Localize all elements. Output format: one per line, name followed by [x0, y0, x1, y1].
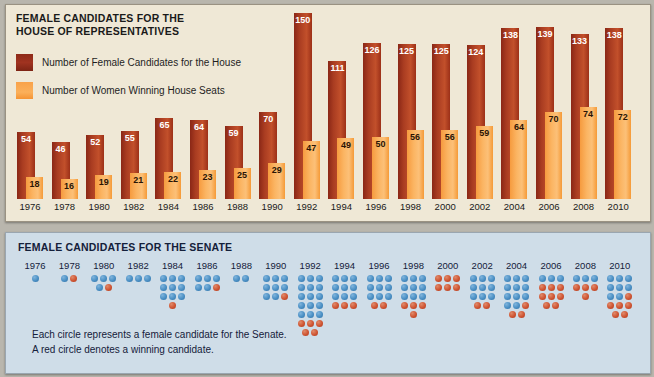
senate-dot-grid [190, 275, 224, 293]
senate-candidate-dot [281, 275, 288, 282]
senate-candidate-dot [350, 284, 357, 291]
senate-axis-year: 1994 [328, 259, 362, 272]
senate-candidate-dot [513, 302, 520, 309]
senate-candidate-dot [410, 284, 417, 291]
senate-dot-row [434, 275, 461, 284]
senate-candidate-dot [410, 293, 417, 300]
senate-winner-dot [612, 311, 619, 318]
bar-value-candidates: 139 [536, 29, 554, 39]
senate-axis-year: 2002 [465, 259, 499, 272]
senate-winner-dot [453, 284, 460, 291]
senate-candidate-dot [616, 293, 623, 300]
bar-value-candidates: 65 [155, 120, 173, 130]
senate-dot-row [262, 284, 289, 293]
senate-winner-dot [341, 302, 348, 309]
senate-candidate-dot [410, 275, 417, 282]
senate-dot-row [297, 320, 324, 329]
senate-winner-dot [281, 293, 288, 300]
senate-dot-grid [121, 275, 155, 284]
senate-dot-row [331, 275, 358, 284]
house-axis-year: 1980 [82, 201, 116, 212]
senate-dot-grid [52, 275, 86, 284]
senate-dot-row [159, 275, 186, 284]
house-axis-year: 1982 [117, 201, 151, 212]
senate-candidate-dot [350, 293, 357, 300]
senate-candidate-dot [385, 293, 392, 300]
bar-value-winners: 18 [26, 179, 43, 189]
senate-dot-grid [465, 275, 499, 311]
senate-candidate-dot [479, 293, 486, 300]
senate-dot-row [611, 311, 629, 320]
bar-value-winners: 50 [372, 139, 389, 149]
senate-dot-row [469, 284, 496, 293]
senate-dot-row [606, 302, 633, 311]
house-axis-year: 2000 [428, 201, 462, 212]
bar-value-winners: 56 [441, 132, 458, 142]
senate-candidate-dot [96, 284, 103, 291]
senate-candidate-dot [350, 275, 357, 282]
senate-dot-row [538, 275, 565, 284]
senate-axis-year: 1976 [18, 259, 52, 272]
bar-value-winners: 72 [614, 112, 631, 122]
senate-candidate-dot [263, 275, 270, 282]
senate-note-line-2: A red circle denotes a winning candidate… [32, 342, 287, 357]
senate-winner-dot [453, 275, 460, 282]
senate-candidate-dot [341, 275, 348, 282]
senate-candidate-dot [607, 275, 614, 282]
senate-winner-dot [311, 329, 318, 336]
senate-winner-dot [539, 293, 546, 300]
senate-candidate-dot [316, 284, 323, 291]
bar-winners: 50 [372, 137, 389, 199]
senate-dot-row [606, 293, 633, 302]
senate-year-column: 1988 [224, 259, 258, 284]
senate-axis-year: 1986 [190, 259, 224, 272]
senate-candidate-dot [607, 284, 614, 291]
senate-dot-row [331, 293, 358, 302]
senate-candidate-dot [522, 284, 529, 291]
senate-axis-year: 2006 [534, 259, 568, 272]
senate-dot-row [31, 275, 40, 284]
senate-candidate-dot [307, 311, 314, 318]
senate-dot-row [572, 284, 599, 293]
infographic-page: FEMALE CANDIDATES FOR THE HOUSE OF REPRE… [0, 0, 654, 377]
senate-axis-year: 2010 [603, 259, 637, 272]
senate-winner-dot [552, 302, 559, 309]
bar-value-candidates: 64 [190, 122, 208, 132]
senate-winner-dot [350, 302, 357, 309]
senate-year-column: 2008 [568, 259, 602, 302]
senate-axis-year: 1988 [224, 259, 258, 272]
senate-year-column: 1976 [18, 259, 52, 284]
senate-candidate-dot [195, 284, 202, 291]
senate-dot-row [331, 284, 358, 293]
senate-candidate-dot [307, 275, 314, 282]
senate-chart-title: FEMALE CANDIDATES FOR THE SENATE [18, 241, 232, 253]
senate-candidate-dot [341, 284, 348, 291]
senate-candidate-dot [332, 275, 339, 282]
senate-dot-grid [568, 275, 602, 302]
senate-dot-row [370, 302, 388, 311]
bar-winners: 72 [614, 110, 631, 199]
senate-winner-dot [509, 311, 516, 318]
senate-axis-year: 1980 [87, 259, 121, 272]
senate-candidate-dot [298, 275, 305, 282]
senate-dot-row [262, 275, 289, 284]
senate-dot-grid [396, 275, 430, 320]
senate-candidate-dot [504, 293, 511, 300]
senate-dot-row [538, 284, 565, 293]
senate-candidate-dot [307, 302, 314, 309]
house-axis-year: 1976 [13, 201, 47, 212]
senate-dot-row [159, 284, 186, 293]
bar-winners: 70 [545, 112, 562, 199]
senate-candidate-dot [488, 293, 495, 300]
senate-candidate-dot [385, 275, 392, 282]
senate-dot-grid [500, 275, 534, 320]
senate-winner-dot [444, 284, 451, 291]
senate-dot-row [297, 284, 324, 293]
senate-candidate-dot [144, 275, 151, 282]
senate-candidate-dot [307, 293, 314, 300]
senate-candidate-dot [178, 275, 185, 282]
senate-candidate-dot [419, 293, 426, 300]
house-axis-year: 1986 [186, 201, 220, 212]
house-bars-plot-area: 5418461652195521652264235925702915047111… [14, 13, 644, 199]
bar-value-winners: 74 [580, 109, 597, 119]
